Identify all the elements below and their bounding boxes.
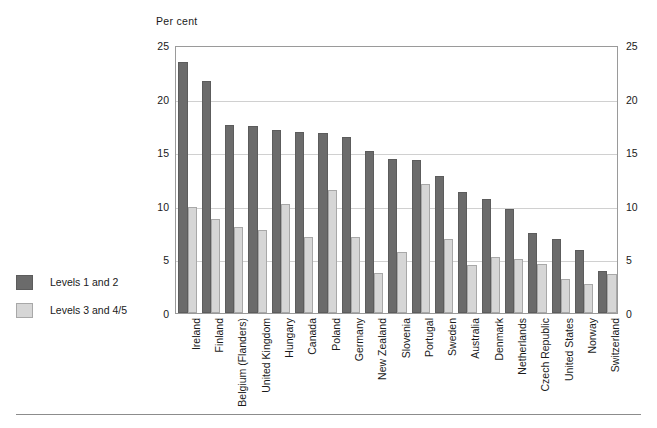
bar-levels-1-and-2 [225,125,234,313]
y-axis-tick-right-0: 0 [626,309,632,320]
bar-levels-3-and-45 [211,219,220,313]
x-axis-label: United Kingdom [261,318,272,393]
legend-item: Levels 3 and 4/5 [16,296,166,324]
bar-levels-3-and-45 [328,190,337,313]
y-axis-tick-right-5: 5 [626,255,632,266]
bar-levels-3-and-45 [561,279,570,313]
x-axis-label: Australia [470,318,481,359]
y-axis-tick-right-20: 20 [626,95,638,106]
x-axis-label: Canada [307,318,318,355]
y-axis-tick-left-15: 15 [157,148,169,159]
x-axis-category-labels: IrelandFinlandBelgium (Flanders)United K… [175,318,618,406]
bar-levels-3-and-45 [491,257,500,313]
x-axis-label: Belgium (Flanders) [237,318,248,407]
y-axis-tick-left-10: 10 [157,202,169,213]
bar-group [225,47,243,313]
bar-levels-3-and-45 [304,237,313,313]
x-axis-label: Denmark [494,318,505,361]
bar-group [575,47,593,313]
bar-levels-3-and-45 [281,204,290,313]
bar-group [272,47,290,313]
bar-levels-3-and-45 [351,237,360,313]
bar-levels-3-and-45 [258,230,267,313]
x-axis-label: Finland [214,318,225,352]
bar-levels-1-and-2 [178,62,187,313]
bar-group [202,47,220,313]
bar-levels-3-and-45 [234,227,243,313]
x-axis-label: New Zealand [377,318,388,380]
bar-levels-3-and-45 [467,265,476,313]
bar-levels-1-and-2 [458,192,467,313]
bar-levels-1-and-2 [528,233,537,313]
legend: Levels 1 and 2 Levels 3 and 4/5 [16,268,166,324]
x-axis-label: Portugal [424,318,435,357]
bar-levels-1-and-2 [505,209,514,313]
bar-group [552,47,570,313]
bars-layer [176,47,617,313]
bar-levels-1-and-2 [482,199,491,313]
bar-levels-3-and-45 [374,273,383,313]
bar-group [528,47,546,313]
bar-group [248,47,266,313]
legend-item: Levels 1 and 2 [16,268,166,296]
x-axis-label: Switzerland [610,318,621,372]
bar-levels-3-and-45 [607,274,616,313]
x-axis-label: Hungary [284,318,295,358]
bar-levels-3-and-45 [421,184,430,313]
y-axis-tick-left-20: 20 [157,95,169,106]
legend-swatch-levels-1-and-2 [16,275,33,290]
x-axis-label: Germany [354,318,365,361]
y-axis-tick-left-25: 25 [157,41,169,52]
bar-group [388,47,406,313]
bar-group [435,47,453,313]
y-axis-right: 0510152025 [626,46,650,314]
x-axis-label: United States [564,318,575,381]
bar-group [482,47,500,313]
bar-levels-1-and-2 [412,160,421,313]
y-axis-tick-right-25: 25 [626,41,638,52]
bar-levels-3-and-45 [514,259,523,313]
bar-levels-1-and-2 [295,132,304,313]
bar-levels-1-and-2 [598,271,607,313]
y-axis-tick-right-10: 10 [626,202,638,213]
bar-group [365,47,383,313]
bar-levels-1-and-2 [388,159,397,313]
bar-levels-3-and-45 [397,252,406,313]
bar-levels-3-and-45 [537,264,546,313]
x-axis-label: Sweden [447,318,458,356]
bar-levels-1-and-2 [342,137,351,313]
bar-levels-1-and-2 [365,151,374,313]
plot-area [175,46,618,314]
legend-label-levels-1-and-2: Levels 1 and 2 [50,276,118,288]
x-axis-label: Ireland [191,318,202,350]
bar-levels-3-and-45 [584,284,593,313]
bar-group [598,47,616,313]
bar-group [412,47,430,313]
bar-levels-1-and-2 [202,81,211,313]
bar-levels-3-and-45 [188,207,197,313]
bar-levels-1-and-2 [248,126,257,313]
bar-levels-1-and-2 [435,176,444,313]
bar-group [342,47,360,313]
x-axis-label: Netherlands [517,318,528,375]
y-axis-tick-left-5: 5 [163,255,169,266]
bar-group [458,47,476,313]
bottom-divider [16,414,641,415]
x-axis-label: Slovenia [401,318,412,358]
bar-levels-1-and-2 [575,250,584,313]
bar-levels-1-and-2 [272,130,281,313]
bar-group [318,47,336,313]
bar-levels-1-and-2 [552,239,561,313]
bar-levels-3-and-45 [444,239,453,313]
x-axis-label: Poland [331,318,342,351]
y-axis-tick-right-15: 15 [626,148,638,159]
bar-group [505,47,523,313]
bar-levels-1-and-2 [318,133,327,313]
bar-group [178,47,196,313]
bar-group [295,47,313,313]
legend-label-levels-3-and-45: Levels 3 and 4/5 [50,304,127,316]
x-axis-label: Norway [587,318,598,354]
y-axis-unit-label: Per cent [156,15,198,27]
x-axis-label: Czech Republic [540,318,551,392]
legend-swatch-levels-3-and-45 [16,303,33,318]
